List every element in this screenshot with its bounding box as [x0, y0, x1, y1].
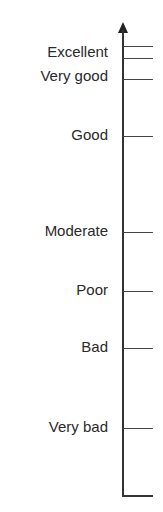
tick-bad: [123, 348, 153, 349]
vertical-axis: [122, 30, 124, 496]
label-very-bad: Very bad: [49, 419, 108, 435]
tick-good: [123, 136, 153, 137]
tick-excellent-lower: [123, 58, 153, 59]
tick-poor: [123, 291, 153, 292]
tick-very-good: [123, 79, 153, 80]
tick-moderate: [123, 232, 153, 233]
label-poor: Poor: [76, 282, 108, 298]
label-excellent: Excellent: [47, 44, 108, 60]
tick-excellent-upper: [123, 46, 153, 47]
label-very-good: Very good: [40, 68, 108, 84]
label-good: Good: [71, 127, 108, 143]
label-moderate: Moderate: [45, 223, 108, 239]
axis-baseline: [122, 495, 153, 497]
tick-very-bad: [123, 428, 153, 429]
label-bad: Bad: [81, 339, 108, 355]
